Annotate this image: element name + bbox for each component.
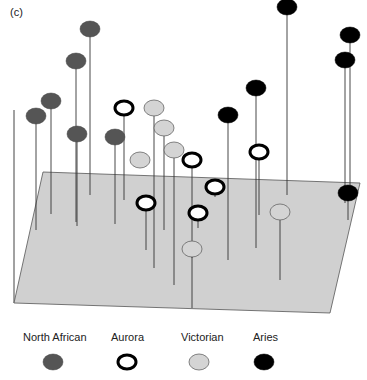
- aries-point: [338, 185, 358, 201]
- north-african-point: [67, 126, 87, 142]
- victorian-point: [154, 120, 174, 136]
- legend-label-aries: Aries: [253, 331, 278, 343]
- aurora-point: [183, 153, 201, 167]
- aurora-point: [250, 145, 268, 159]
- aurora-point: [206, 180, 224, 194]
- north-african-point: [41, 93, 61, 109]
- aries-point: [246, 80, 266, 96]
- victorian-point: [270, 204, 290, 220]
- victorian-point: [130, 152, 150, 168]
- aries-point: [218, 107, 238, 123]
- legend-marker-aurora: [118, 355, 136, 369]
- north-african-point: [26, 108, 46, 124]
- aries-point: [277, 0, 297, 15]
- legend-marker-aries: [254, 354, 274, 370]
- aurora-point: [189, 206, 207, 220]
- aries-point: [340, 27, 360, 43]
- pin-plot-chart: [0, 0, 367, 380]
- victorian-point: [182, 241, 202, 257]
- north-african-point: [66, 53, 86, 69]
- legend-markers: [43, 354, 274, 370]
- legend-label-aurora: Aurora: [111, 331, 144, 343]
- aurora-point: [137, 196, 155, 210]
- legend-marker-victorian: [189, 354, 209, 370]
- legend-label-north-african: North African: [23, 331, 87, 343]
- north-african-point: [105, 129, 125, 145]
- victorian-point: [144, 100, 164, 116]
- panel-label: (c): [10, 6, 23, 18]
- legend-label-victorian: Victorian: [181, 331, 224, 343]
- aurora-point: [115, 101, 133, 115]
- legend-marker-north-african: [43, 354, 63, 370]
- north-african-point: [80, 21, 100, 37]
- victorian-point: [164, 142, 184, 158]
- aries-point: [335, 52, 355, 68]
